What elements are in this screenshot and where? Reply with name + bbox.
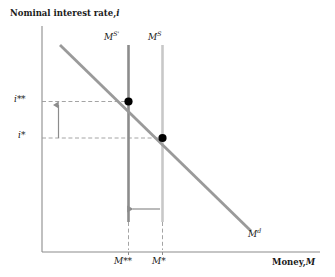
- y-tick-i-star-marks: *: [21, 130, 25, 140]
- money-market-chart: Nominal interest rate,i Money,M MS' MS M…: [0, 0, 335, 277]
- money-demand-label-base: M: [248, 229, 257, 239]
- y-axis-title-text: Nominal interest rate,: [10, 8, 116, 18]
- x-tick-m-double-star-var: M: [114, 256, 123, 266]
- original-equilibrium-dot: [158, 134, 166, 142]
- y-tick-label-i-star: i*: [18, 131, 25, 140]
- money-supply-new-label-base: M: [104, 32, 113, 42]
- chart-canvas: [0, 0, 335, 277]
- new-equilibrium-dot: [124, 97, 132, 105]
- x-tick-label-m-double-star: M**: [114, 257, 132, 266]
- x-tick-m-star-var: M: [152, 256, 161, 266]
- money-supply-original-label: MS: [148, 31, 161, 42]
- x-tick-m-double-star-marks: **: [123, 256, 131, 266]
- x-axis-title-text: Money,: [272, 257, 306, 267]
- y-tick-i-double-star-marks: **: [17, 94, 25, 104]
- x-axis-title: Money,M: [272, 258, 315, 267]
- money-supply-original-label-base: M: [148, 32, 157, 42]
- money-supply-new-label: MS': [104, 31, 119, 42]
- guide-lines: [42, 102, 164, 251]
- y-axis-title-variable: i: [116, 8, 119, 18]
- axis-lines: [42, 26, 320, 252]
- equilibrium-points: [124, 97, 166, 142]
- y-tick-label-i-double-star: i**: [14, 95, 25, 104]
- x-tick-label-m-star: M*: [152, 257, 165, 266]
- x-tick-m-star-marks: *: [161, 256, 165, 266]
- x-axis-title-variable: M: [306, 257, 315, 267]
- money-demand-label: Md: [248, 228, 261, 239]
- money-demand-label-sup: d: [257, 227, 261, 234]
- y-axis-title: Nominal interest rate,i: [10, 9, 119, 18]
- money-supply-new-label-sup: S': [113, 30, 119, 37]
- money-supply-original-label-sup: S: [157, 30, 161, 37]
